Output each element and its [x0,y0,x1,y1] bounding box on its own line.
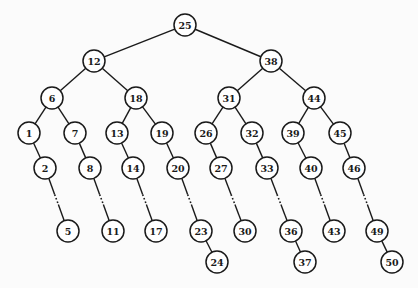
node-label: 46 [347,163,361,174]
node-label: 33 [260,163,273,174]
tree-node-40: 40 [300,157,322,179]
tree-node-30: 30 [234,220,256,242]
tree-edge [191,205,197,221]
tree-edge [358,178,364,194]
tree-edge [315,178,321,194]
node-label: 49 [370,226,384,237]
tree-nodes: 2512386183144171319263239452814202733404… [18,14,403,273]
tree-node-39: 39 [282,122,304,144]
tree-node-37: 37 [294,251,316,273]
tree-edge [34,143,41,158]
tree-edge [79,143,85,158]
tree-node-14: 14 [122,157,144,179]
tree-edge [298,143,306,158]
node-label: 32 [245,128,258,139]
tree-edge [296,241,301,252]
tree-node-8: 8 [79,157,101,179]
node-label: 7 [72,128,79,139]
tree-edge [35,107,46,124]
tree-node-38: 38 [260,50,282,72]
tree-node-5: 5 [57,220,79,242]
tree-node-23: 23 [190,220,212,242]
tree-edge [271,178,277,194]
tree-node-12: 12 [83,50,105,72]
tree-node-17: 17 [145,220,167,242]
node-label: 13 [110,128,123,139]
node-label: 14 [126,163,140,174]
tree-edge [321,107,334,124]
tree-edge [344,143,350,158]
omitted-nodes-ellipsis [321,194,325,204]
node-label: 5 [65,226,72,237]
tree-edge [102,68,127,90]
node-label: 44 [307,93,321,104]
node-label: 27 [214,163,227,174]
node-label: 31 [222,93,235,104]
tree-edge [382,241,387,252]
tree-edge [103,205,109,221]
binary-search-tree-diagram: 2512386183144171319263239452814202733404… [0,0,418,288]
tree-edge [225,178,231,194]
tree-edge [210,143,216,158]
node-label: 39 [286,128,300,139]
tree-node-43: 43 [323,220,345,242]
tree-edge [58,107,69,124]
tree-edge [212,107,223,124]
tree-edge [146,205,152,221]
omitted-nodes-ellipsis [100,194,104,204]
node-label: 2 [42,163,49,174]
tree-node-45: 45 [329,122,351,144]
node-label: 19 [155,128,169,139]
node-label: 36 [284,226,298,237]
omitted-nodes-ellipsis [188,194,192,204]
tree-node-20: 20 [167,157,189,179]
node-label: 17 [149,226,162,237]
node-label: 26 [199,128,213,139]
tree-edge [367,205,373,221]
tree-node-25: 25 [174,14,196,36]
tree-edge [137,178,143,194]
node-label: 20 [171,163,185,174]
node-label: 1 [26,128,33,139]
tree-node-49: 49 [366,220,388,242]
tree-node-27: 27 [210,157,232,179]
node-label: 30 [238,226,252,237]
tree-edge [122,108,131,124]
tree-node-50: 50 [381,251,403,273]
tree-node-31: 31 [218,87,240,109]
omitted-nodes-ellipsis [277,194,281,204]
node-label: 24 [210,257,224,268]
tree-node-13: 13 [106,122,128,144]
node-label: 40 [304,163,318,174]
tree-node-19: 19 [151,122,173,144]
tree-node-44: 44 [303,87,325,109]
tree-node-2: 2 [34,157,56,179]
tree-edge [104,29,175,57]
node-label: 45 [333,128,346,139]
tree-edge [206,241,212,252]
tree-edge [182,178,188,194]
node-label: 43 [327,226,340,237]
node-label: 6 [49,93,56,104]
tree-node-36: 36 [280,220,302,242]
node-label: 23 [194,226,207,237]
tree-edge [167,143,174,158]
tree-edge [235,205,241,221]
node-label: 38 [264,56,278,67]
tree-edge [195,29,261,57]
tree-node-7: 7 [64,122,86,144]
tree-edge [58,205,64,221]
tree-node-18: 18 [125,87,147,109]
node-label: 18 [129,93,143,104]
omitted-nodes-ellipsis [55,194,59,204]
node-label: 50 [385,257,399,268]
tree-edge [256,143,262,158]
tree-node-1: 1 [18,122,40,144]
node-label: 25 [178,20,191,31]
node-label: 8 [87,163,94,174]
tree-node-6: 6 [41,87,63,109]
node-label: 37 [298,257,311,268]
tree-edge [324,205,330,221]
tree-edge [279,68,305,91]
tree-node-46: 46 [343,157,365,179]
